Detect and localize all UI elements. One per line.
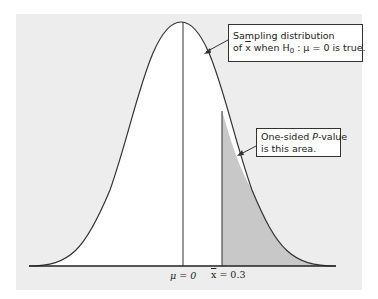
- xbar-label: x = 0.3: [211, 269, 245, 280]
- callout-line: is this area.: [261, 143, 336, 155]
- mu-label: μ = 0: [170, 270, 196, 281]
- callout-line: of x when H0 : μ = 0 is true.: [233, 42, 358, 57]
- callout-sampling-distribution: Sampling distribution of x when H0 : μ =…: [228, 24, 363, 62]
- text: -value: [318, 131, 347, 142]
- text: : μ = 0 is true.: [294, 42, 365, 53]
- text: when H: [251, 42, 290, 53]
- text: = 0.3: [216, 269, 245, 280]
- callout-line: Sampling distribution: [233, 30, 358, 42]
- callout-line: One-sided P-value: [261, 131, 336, 143]
- callout-p-value: One-sided P-value is this area.: [256, 128, 341, 157]
- text: of: [233, 42, 245, 53]
- text: One-sided: [261, 131, 312, 142]
